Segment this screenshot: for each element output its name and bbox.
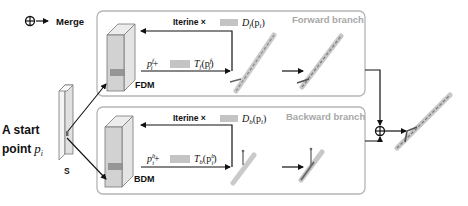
- backward-step-gray-box: [170, 155, 190, 163]
- merge-symbol-icon: [26, 17, 35, 26]
- bdm-block: [105, 116, 133, 187]
- forward-branch-title: Forward branch: [292, 14, 364, 25]
- fdm-block: [107, 24, 135, 91]
- bdm-label: BDM: [134, 174, 155, 184]
- merged-vessel-icon: [397, 95, 450, 148]
- forward-step-formula: pfi+: [146, 57, 159, 71]
- backward-branch-title: Backward branch: [286, 111, 365, 122]
- legend: Merge: [26, 16, 84, 27]
- backward-iteration-label: Iterine ×: [173, 113, 206, 123]
- start-point-label-line1: A start: [2, 123, 40, 137]
- forward-step-gray-box: [170, 60, 190, 68]
- backward-iter-gray-box: [220, 115, 238, 122]
- backward-step-formula: pbi+: [146, 152, 160, 166]
- diagram-canvas: Merge Forward branch FDM Iterine × Df(pi…: [0, 0, 468, 206]
- legend-label: Merge: [56, 16, 84, 27]
- bdm-feature-patch: [108, 163, 123, 170]
- start-point-marker: [66, 131, 69, 136]
- slice-label: S: [64, 166, 70, 176]
- fdm-feature-patch: [110, 69, 125, 76]
- forward-iter-gray-box: [220, 19, 238, 26]
- start-point-label-line2: pointpi: [2, 141, 43, 158]
- merge-node-icon: [376, 127, 385, 136]
- forward-iteration-label: Iterine ×: [173, 17, 206, 27]
- forward-branch: Forward branch FDM Iterine × Df(pi) pfi+…: [97, 11, 365, 96]
- backward-step-transform: Tb(pbi): [194, 152, 217, 166]
- fdm-label: FDM: [135, 80, 155, 90]
- forward-to-merge-arrow: [365, 70, 380, 125]
- start-slice: [59, 85, 73, 160]
- forward-step-transform: Tf(pfi): [194, 57, 214, 71]
- backward-branch: Backward branch BDM Iterine × Db(pi) pbi…: [97, 107, 365, 194]
- backward-to-merge-arrow: [365, 137, 380, 141]
